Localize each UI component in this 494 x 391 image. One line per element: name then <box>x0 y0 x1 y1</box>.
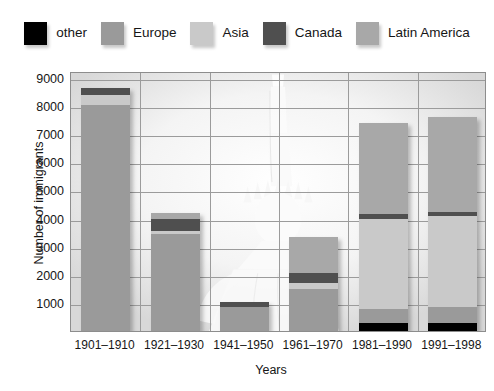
gridline-vertical <box>418 73 419 331</box>
bar-segment-other[interactable] <box>359 323 408 331</box>
stacked-bar[interactable] <box>289 237 338 331</box>
y-tick-label: 9000 <box>6 72 64 86</box>
gridline-vertical <box>348 73 349 331</box>
gridline-vertical <box>140 73 141 331</box>
legend-swatch-latin_america <box>356 22 379 45</box>
x-tick-label: 1981–1990 <box>352 338 412 352</box>
bar-segment-asia[interactable] <box>428 216 477 307</box>
bar-segment-canada[interactable] <box>81 88 130 95</box>
gridline-horizontal <box>71 221 485 222</box>
gridline-horizontal <box>71 305 485 306</box>
bar-segment-canada[interactable] <box>151 219 200 232</box>
stacked-bar[interactable] <box>151 213 200 331</box>
bar-segment-europe[interactable] <box>289 289 338 331</box>
x-tick-label: 1961–1970 <box>283 338 343 352</box>
legend-label-other: other <box>56 26 87 40</box>
immigration-stacked-bar-chart: otherEuropeAsiaCanadaLatin America Numbe… <box>0 0 494 391</box>
legend-item-other[interactable]: other <box>24 22 87 45</box>
bar-segment-canada[interactable] <box>220 302 269 308</box>
bar-segment-europe[interactable] <box>151 234 200 331</box>
x-axis-title: Years <box>56 363 486 377</box>
legend-swatch-asia <box>190 22 213 45</box>
bar-segment-asia[interactable] <box>81 95 130 105</box>
plot-area <box>70 72 486 332</box>
bar-segment-europe[interactable] <box>81 105 130 331</box>
bar-segment-latin-america[interactable] <box>151 213 200 219</box>
bar-segment-europe[interactable] <box>220 307 269 331</box>
gridline-horizontal <box>71 80 485 81</box>
bar-segment-europe[interactable] <box>428 307 477 322</box>
stacked-bar[interactable] <box>428 117 477 331</box>
gridline-horizontal <box>71 192 485 193</box>
legend-item-canada[interactable]: Canada <box>263 22 342 45</box>
legend-item-europe[interactable]: Europe <box>101 22 177 45</box>
bar-segment-latin-america[interactable] <box>428 117 477 211</box>
gridline-horizontal <box>71 249 485 250</box>
x-tick-label: 1941–1950 <box>213 338 273 352</box>
bar-segment-europe[interactable] <box>359 309 408 323</box>
stacked-bar[interactable] <box>359 123 408 331</box>
bar-segment-asia[interactable] <box>289 283 338 289</box>
bar-segment-canada[interactable] <box>289 273 338 283</box>
y-axis-title: Number of immigrants <box>32 98 46 308</box>
bar-group-3[interactable] <box>220 72 269 331</box>
legend-item-latin_america[interactable]: Latin America <box>356 22 470 45</box>
legend-label-asia: Asia <box>222 26 248 40</box>
legend-label-europe: Europe <box>133 26 177 40</box>
legend-swatch-europe <box>101 22 124 45</box>
bar-group-5[interactable] <box>359 72 408 331</box>
bar-group-2[interactable] <box>151 72 200 331</box>
stacked-bar[interactable] <box>81 88 130 331</box>
stacked-bar[interactable] <box>220 302 269 332</box>
gridline-horizontal <box>71 164 485 165</box>
bar-segment-latin-america[interactable] <box>359 123 408 214</box>
gridline-vertical <box>210 73 211 331</box>
bar-group-4[interactable] <box>289 72 338 331</box>
bar-group-1[interactable] <box>81 72 130 331</box>
legend-label-canada: Canada <box>295 26 342 40</box>
gridline-horizontal <box>71 108 485 109</box>
x-tick-label: 1921–1930 <box>144 338 204 352</box>
bar-segment-canada[interactable] <box>359 214 408 218</box>
gridline-horizontal <box>71 277 485 278</box>
chart-legend: otherEuropeAsiaCanadaLatin America <box>0 18 494 48</box>
gridline-horizontal <box>71 136 485 137</box>
bar-segment-latin-america[interactable] <box>289 237 338 274</box>
statue-of-liberty-watermark <box>71 73 485 331</box>
bar-segment-other[interactable] <box>428 323 477 331</box>
bar-segment-canada[interactable] <box>428 212 477 216</box>
gridline-vertical <box>279 73 280 331</box>
x-tick-label: 1901–1910 <box>75 338 135 352</box>
legend-label-latin_america: Latin America <box>388 26 470 40</box>
bar-group-6[interactable] <box>428 72 477 331</box>
legend-item-asia[interactable]: Asia <box>190 22 248 45</box>
bar-segment-asia[interactable] <box>359 219 408 309</box>
legend-swatch-other <box>24 22 47 45</box>
bar-segment-asia[interactable] <box>151 231 200 234</box>
x-tick-label: 1991–1998 <box>421 338 481 352</box>
legend-swatch-canada <box>263 22 286 45</box>
